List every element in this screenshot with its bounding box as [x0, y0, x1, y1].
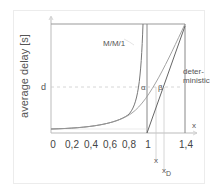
y-axis-label: average delay [s]	[19, 34, 30, 118]
deterministic-label-line2: ministic	[183, 77, 210, 85]
x-tick-5: 1	[145, 140, 151, 150]
x-tick-3: 0,6	[103, 140, 117, 150]
d-tick-label: d	[41, 83, 46, 92]
chart-canvas	[0, 0, 217, 195]
deterministic-line	[147, 26, 185, 133]
x-axis-label: x	[192, 122, 196, 130]
x-marker-label: x	[154, 157, 158, 165]
mm1-label: M/M/1	[103, 40, 125, 48]
mm1-curve	[51, 24, 143, 129]
beta-label: β	[158, 84, 163, 92]
x-tick-0: 0	[50, 140, 56, 150]
xd-subscript: D	[166, 170, 171, 177]
x-tick-6: 1,4	[179, 140, 193, 150]
mm1-pointer	[124, 39, 134, 45]
x-tick-4: 0,8	[122, 140, 136, 150]
alpha-label: α	[141, 84, 146, 92]
xd-marker-label: xD	[162, 167, 171, 177]
x-tick-1: 0,2	[65, 140, 79, 150]
x-tick-2: 0,4	[84, 140, 98, 150]
deterministic-label-line1: deter-	[183, 68, 204, 76]
